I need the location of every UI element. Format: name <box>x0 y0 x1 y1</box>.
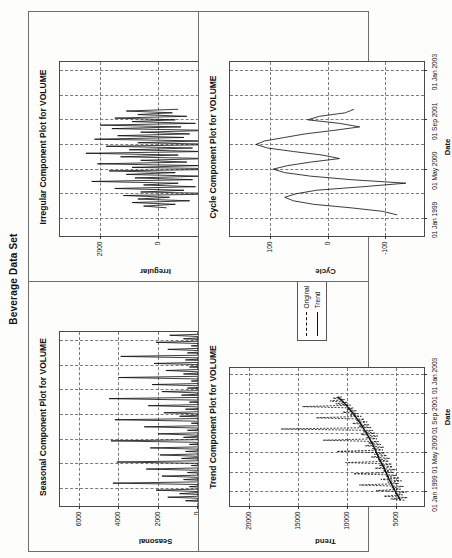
ytick-label: 20000 <box>245 512 252 548</box>
panel-title-irregular: Irregular Component Plot for VOLUME <box>38 13 48 282</box>
axis-label-y: Cycle <box>295 267 355 276</box>
xtick-label: 01 Jan 2003 <box>431 54 438 90</box>
series-line-cycle <box>255 110 405 216</box>
legend-key-solid <box>317 313 318 337</box>
series-layer-trend <box>230 367 426 507</box>
legend-item: Trend <box>312 286 323 337</box>
tick-y <box>79 507 80 510</box>
figure-title: Beverage Data Set <box>8 0 19 558</box>
panel-trend: Trend Component Plot for VOLUME Original… <box>198 282 369 553</box>
legend: OriginalTrend <box>297 280 327 342</box>
xtick-label: 01 May 2000 <box>431 152 438 190</box>
panel-title-trend: Trend Component Plot for VOLUME <box>208 283 218 552</box>
panel-seasonal: Seasonal Component Plot for VOLUME 01 Ja… <box>28 282 199 553</box>
panel-cycle: Cycle Component Plot for VOLUME 01 Jan 1… <box>198 12 369 283</box>
series-line-original <box>280 397 406 501</box>
panel-irregular: Irregular Component Plot for VOLUME 01 J… <box>28 12 199 283</box>
panel-grid: Seasonal Component Plot for VOLUME 01 Ja… <box>28 12 368 552</box>
tick-y <box>347 507 348 510</box>
axes-frame-cycle <box>229 62 425 238</box>
panel-title-seasonal: Seasonal Component Plot for VOLUME <box>38 283 48 552</box>
xtick-label: 01 Jan 1999 <box>431 202 438 238</box>
tick-y <box>298 507 299 510</box>
axis-label-y: Trend <box>295 537 355 546</box>
legend-key-dashed <box>306 313 307 337</box>
ytick-label: -100 <box>381 242 388 278</box>
xtick-label: 01 May 2000 <box>431 435 438 473</box>
ytick-label: 100 <box>265 242 272 278</box>
xtick-label: 01 Sep 2001 <box>431 396 438 433</box>
legend-label: Trend <box>314 292 321 309</box>
panel-title-cycle: Cycle Component Plot for VOLUME <box>208 13 218 282</box>
axes-frame-trend <box>229 368 425 508</box>
tick-y <box>100 237 101 240</box>
tick-y <box>270 237 271 240</box>
ytick-label: 5000 <box>392 512 399 548</box>
tick-y <box>328 237 329 240</box>
legend-item: Original <box>301 286 312 337</box>
axis-label-y: Seasonal <box>125 537 185 546</box>
xtick-label: 01 Jan 1999 <box>431 475 438 511</box>
tick-y <box>118 507 119 510</box>
ytick-label: 2000 <box>95 242 102 278</box>
tick-y <box>158 507 159 510</box>
ytick-label: 6000 <box>75 512 82 548</box>
xtick-label: 01 Sep 2001 <box>431 103 438 140</box>
legend-label: Original <box>303 286 310 309</box>
xtick-label: 01 Jan 2003 <box>431 358 438 394</box>
plot-area-trend <box>229 368 425 508</box>
axis-label-x: Date <box>443 283 452 552</box>
ytick-label: 4000 <box>114 512 121 548</box>
plot-area-cycle <box>229 62 425 238</box>
tick-y <box>385 237 386 240</box>
axis-label-y: Irregular <box>125 267 185 276</box>
tick-y <box>158 237 159 240</box>
tick-y <box>396 507 397 510</box>
axis-label-x: Date <box>443 13 452 282</box>
tick-y <box>249 507 250 510</box>
series-layer-cycle <box>230 61 426 237</box>
